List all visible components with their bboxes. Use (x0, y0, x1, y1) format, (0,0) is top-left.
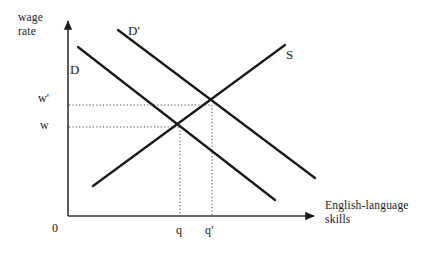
wage-high-tick-label: w' (38, 92, 49, 105)
supply-curve-label: S (286, 48, 293, 61)
origin-label: 0 (52, 222, 58, 235)
y-axis-label: wage rate (18, 10, 43, 38)
quantity-low-tick-label: q (176, 224, 182, 237)
supply-demand-figure: wage rate English-language skills 0 w' w… (0, 0, 439, 257)
wage-low-tick-label: w (40, 119, 49, 132)
quantity-high-tick-label: q' (205, 224, 214, 237)
x-axis-label: English-language skills (325, 198, 409, 226)
demand-shifted-curve-label: D' (128, 24, 140, 37)
demand-curve-label: D (70, 63, 80, 76)
supply-curve-s (93, 45, 285, 186)
